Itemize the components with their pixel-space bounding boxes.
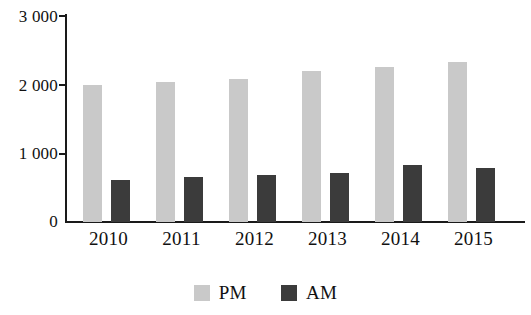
legend-swatch-icon — [281, 285, 297, 301]
y-axis-tick-label: 1 000 — [2, 145, 58, 162]
legend-label: PM — [219, 283, 247, 302]
bar-am — [476, 168, 495, 223]
x-axis-tick-label: 2013 — [291, 228, 364, 250]
bar-group — [291, 15, 364, 222]
x-axis-tick-label: 2011 — [145, 228, 218, 250]
bar-am — [184, 177, 203, 223]
legend-item-am: AM — [281, 283, 337, 302]
x-axis-tick-label: 2015 — [437, 228, 510, 250]
y-axis-tick-label: 3 000 — [2, 8, 58, 25]
bar-pm — [229, 79, 248, 222]
bar-chart: 3 000 2 000 1 000 0 — [0, 0, 531, 315]
y-axis-tick — [59, 153, 66, 155]
bar-am — [330, 173, 349, 222]
bar-am — [111, 180, 130, 222]
legend-label: AM — [306, 283, 337, 302]
y-axis-tick-label: 2 000 — [2, 77, 58, 94]
bar-group — [364, 15, 437, 222]
bar-group — [145, 15, 218, 222]
bar-pm — [156, 82, 175, 222]
y-axis-tick — [59, 84, 66, 86]
plot-area — [66, 15, 524, 222]
bar-pm — [448, 62, 467, 222]
x-axis-tick-label: 2010 — [72, 228, 145, 250]
bar-group — [218, 15, 291, 222]
bar-group — [72, 15, 145, 222]
x-axis-tick-label: 2014 — [364, 228, 437, 250]
bar-pm — [83, 85, 102, 222]
x-axis-tick-label: 2012 — [218, 228, 291, 250]
y-axis-tick-label: 0 — [2, 213, 58, 230]
bar-am — [403, 165, 422, 222]
legend-swatch-icon — [194, 285, 210, 301]
chart-legend: PM AM — [0, 283, 531, 302]
bar-pm — [302, 71, 321, 222]
bar-pm — [375, 67, 394, 222]
legend-item-pm: PM — [194, 283, 247, 302]
y-axis-labels: 3 000 2 000 1 000 0 — [0, 0, 58, 315]
bar-group — [437, 15, 510, 222]
bar-am — [257, 175, 276, 222]
y-axis-tick — [59, 15, 66, 17]
